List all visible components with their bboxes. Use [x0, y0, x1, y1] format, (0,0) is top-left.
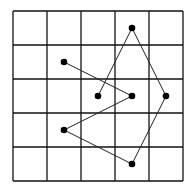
dot — [163, 93, 170, 100]
dot — [61, 127, 68, 134]
dot — [95, 93, 102, 100]
grid-path-diagram — [0, 0, 192, 185]
dot — [129, 93, 136, 100]
dot — [129, 161, 136, 168]
dot — [61, 59, 68, 66]
dot — [129, 25, 136, 32]
